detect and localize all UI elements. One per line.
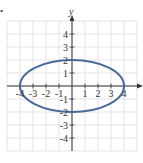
y-tick-label: -3 bbox=[60, 120, 68, 131]
x-tick-label: -2 bbox=[42, 88, 50, 99]
ellipse-graph: • xy-4-3-2-11234-4-3-2-11234 bbox=[0, 0, 143, 163]
x-tick-label: -3 bbox=[29, 88, 37, 99]
y-tick-label: -2 bbox=[60, 107, 68, 118]
y-tick-label: -1 bbox=[60, 94, 68, 105]
y-tick-label: -4 bbox=[60, 133, 68, 144]
x-tick-label: 3 bbox=[109, 88, 114, 99]
axes bbox=[7, 15, 143, 151]
y-tick-label: 1 bbox=[63, 68, 68, 79]
x-tick-label: 1 bbox=[83, 88, 88, 99]
y-tick-label: 2 bbox=[63, 55, 68, 66]
x-tick-label: 2 bbox=[96, 88, 101, 99]
y-tick-label: 3 bbox=[63, 42, 68, 53]
x-tick-label: 4 bbox=[122, 88, 127, 99]
y-tick-label: 4 bbox=[63, 29, 68, 40]
y-axis-label: y bbox=[68, 6, 74, 17]
x-tick-label: -4 bbox=[16, 88, 24, 99]
x-axis-arrow-icon bbox=[137, 84, 143, 89]
item-marker: • bbox=[0, 6, 3, 16]
